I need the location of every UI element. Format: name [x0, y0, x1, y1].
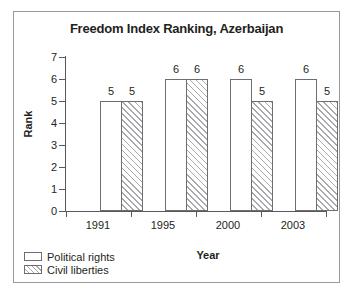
bar-civil-liberties-1991 — [121, 101, 143, 211]
x-tick-4 — [326, 212, 327, 217]
x-tick-label-1995: 1995 — [133, 219, 193, 231]
x-tick-1 — [131, 212, 132, 217]
y-tick-4 — [59, 123, 65, 124]
bar-political-rights-2000 — [230, 79, 252, 211]
bar-political-rights-1991 — [100, 101, 122, 211]
x-tick-2 — [196, 212, 197, 217]
legend-swatch-hatch-icon — [24, 265, 42, 274]
x-tick-label-1991: 1991 — [68, 219, 128, 231]
y-tick-label-1: 1 — [37, 184, 57, 195]
bar-value-civil-liberties-2003: 5 — [315, 86, 339, 97]
legend-label-civil-liberties: Civil liberties — [47, 264, 109, 276]
y-tick-3 — [59, 145, 65, 146]
chart-legend: Political rights Civil liberties — [24, 250, 115, 276]
chart-title: Freedom Index Ranking, Azerbaijan — [13, 21, 340, 36]
x-axis-title: Year — [178, 249, 238, 261]
bar-civil-liberties-2003 — [316, 101, 338, 211]
legend-swatch-solid-icon — [24, 252, 42, 261]
bar-value-political-rights-2003: 6 — [294, 64, 318, 75]
legend-label-political-rights: Political rights — [47, 251, 115, 263]
bar-value-civil-liberties-1995: 6 — [185, 64, 209, 75]
legend-item-civil-liberties: Civil liberties — [24, 263, 115, 276]
y-axis-title: Rank — [22, 94, 34, 154]
y-tick-label-3: 3 — [37, 140, 57, 151]
bar-value-civil-liberties-2000: 5 — [250, 86, 274, 97]
y-tick-label-4: 4 — [37, 118, 57, 129]
y-tick-6 — [59, 79, 65, 80]
bar-value-political-rights-2000: 6 — [229, 64, 253, 75]
y-tick-0 — [59, 211, 65, 212]
y-tick-1 — [59, 189, 65, 190]
y-tick-label-6: 6 — [37, 74, 57, 85]
y-tick-label-0: 0 — [37, 206, 57, 217]
bar-civil-liberties-2000 — [251, 101, 273, 211]
x-tick-label-2003: 2003 — [263, 219, 323, 231]
bar-political-rights-1995 — [165, 79, 187, 211]
x-tick-0 — [66, 212, 67, 217]
legend-item-political-rights: Political rights — [24, 250, 115, 263]
x-tick-label-2000: 2000 — [198, 219, 258, 231]
y-tick-label-5: 5 — [37, 96, 57, 107]
bar-political-rights-2003 — [295, 79, 317, 211]
chart-figure: Freedom Index Ranking, Azerbaijan 7 6 5 … — [0, 0, 353, 295]
bar-value-civil-liberties-1991: 5 — [120, 86, 144, 97]
y-tick-label-2: 2 — [37, 162, 57, 173]
plot-area: 5 5 6 6 6 5 6 5 — [66, 57, 327, 211]
x-tick-3 — [261, 212, 262, 217]
bar-civil-liberties-1995 — [186, 79, 208, 211]
y-tick-2 — [59, 167, 65, 168]
y-tick-label-7: 7 — [37, 52, 57, 63]
y-tick-7 — [59, 57, 65, 58]
y-tick-5 — [59, 101, 65, 102]
